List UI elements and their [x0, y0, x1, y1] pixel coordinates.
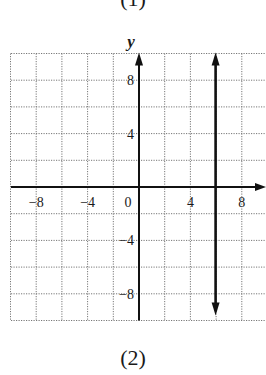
x-tick-label: −8 — [29, 195, 44, 210]
y-tick-label: −8 — [119, 287, 134, 302]
graph-figure: (1) y −8−4048 84−4−8 (2) — [0, 0, 266, 375]
y-tick-label: −4 — [119, 233, 134, 248]
y-tick-label: 8 — [127, 73, 134, 88]
plotted-line-x-equals-6 — [212, 53, 220, 316]
y-axis-label: y — [125, 32, 135, 51]
arrow-down-icon — [212, 303, 220, 316]
y-tick-label: 4 — [127, 127, 134, 142]
x-tick-label: 0 — [125, 195, 132, 210]
arrow-up-icon — [212, 53, 220, 66]
top-caption-fragment: (1) — [120, 0, 146, 11]
x-tick-label: −4 — [80, 195, 95, 210]
x-tick-labels: −8−4048 — [29, 195, 246, 210]
x-tick-label: 8 — [238, 195, 245, 210]
x-axis-arrow-icon — [255, 183, 266, 191]
axes: y — [11, 32, 266, 321]
y-axis-arrow-icon — [135, 53, 143, 66]
figure-caption: (2) — [120, 345, 146, 370]
x-tick-label: 4 — [187, 195, 194, 210]
